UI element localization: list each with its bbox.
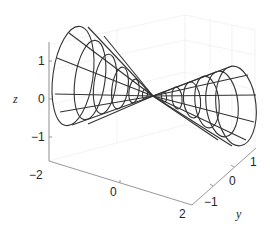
z-tick-0: 0	[38, 92, 45, 106]
z-tick-1: 1	[38, 54, 45, 68]
right-cone-mesh	[153, 64, 260, 148]
z-tick-neg2: −2	[29, 168, 43, 182]
background-grid	[49, 15, 255, 161]
y-tick-0: 0	[229, 174, 236, 188]
y-axis	[192, 148, 256, 205]
x-tick-2: 2	[179, 207, 186, 221]
y-axis-label: y	[235, 207, 242, 221]
axes-lines	[49, 42, 256, 205]
left-cone-mesh	[46, 24, 153, 129]
cone-mesh-plot: 1 0 −1 −2 0 2 −1 0 1 z y	[0, 0, 270, 230]
z-tick-neg1: −1	[31, 130, 45, 144]
y-tick-neg1: −1	[204, 195, 218, 209]
x-axis	[49, 161, 192, 205]
z-axis-label: z	[12, 92, 18, 106]
x-tick-0: 0	[110, 185, 117, 199]
y-tick-1: 1	[250, 155, 257, 169]
